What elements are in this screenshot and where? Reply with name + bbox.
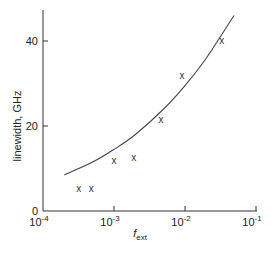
x-tick-label: 10-3 bbox=[100, 214, 120, 228]
y-tick-label: 20 bbox=[26, 120, 38, 132]
data-points: xxxxxxx bbox=[76, 35, 224, 195]
data-point-x-marker: x bbox=[76, 183, 81, 194]
theory-line bbox=[64, 16, 234, 175]
data-point-x-marker: x bbox=[219, 35, 224, 46]
y-axis-label: linewidth, GHz bbox=[11, 91, 23, 162]
linewidth-vs-fext-chart: 02040 10-410-310-210-1 xxxxxxx linewidth… bbox=[0, 0, 276, 253]
data-point-x-marker: x bbox=[112, 155, 117, 166]
axes bbox=[43, 10, 257, 211]
x-ticks: 10-410-310-210-1 bbox=[29, 206, 262, 228]
y-ticks: 02040 bbox=[26, 35, 48, 217]
theory-curve bbox=[64, 16, 234, 175]
x-tick-label: 10-4 bbox=[29, 214, 49, 228]
data-point-x-marker: x bbox=[131, 152, 136, 163]
x-tick-label: 10-2 bbox=[171, 214, 191, 228]
x-tick-label: 10-1 bbox=[242, 214, 262, 228]
data-point-x-marker: x bbox=[180, 70, 185, 81]
x-axis-label: fext bbox=[133, 227, 148, 242]
y-tick-label: 40 bbox=[26, 35, 38, 47]
data-point-x-marker: x bbox=[159, 114, 164, 125]
data-point-x-marker: x bbox=[89, 183, 94, 194]
